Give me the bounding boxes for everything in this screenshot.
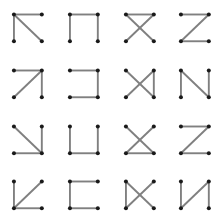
cell-r0c1 xyxy=(56,0,112,56)
graph-node-tl xyxy=(68,12,72,16)
graph-edge-tl-br xyxy=(181,70,209,97)
graph-node-bl xyxy=(123,95,127,99)
graph-node-tl xyxy=(123,12,127,16)
graph-svg xyxy=(167,56,223,112)
graph-node-br xyxy=(40,39,44,43)
graph-node-tr xyxy=(207,180,211,184)
graph-node-tl xyxy=(179,180,183,184)
graph-grid xyxy=(0,0,223,214)
graph-node-br xyxy=(151,206,155,210)
graph-node-tl xyxy=(12,12,16,16)
graph-edge-tl-br xyxy=(14,14,42,41)
cell-r0c3 xyxy=(167,0,223,56)
graph-svg xyxy=(0,56,56,112)
graph-node-br xyxy=(207,39,211,43)
graph-svg xyxy=(112,167,168,214)
graph-node-tl xyxy=(68,124,72,128)
graph-node-bl xyxy=(123,151,127,155)
graph-node-br xyxy=(151,95,155,99)
graph-svg xyxy=(56,167,112,214)
graph-node-bl xyxy=(68,151,72,155)
graph-svg xyxy=(56,56,112,112)
graph-node-br xyxy=(207,151,211,155)
graph-node-bl xyxy=(123,39,127,43)
graph-node-br xyxy=(40,151,44,155)
graph-node-br xyxy=(207,206,211,210)
graph-svg xyxy=(112,112,168,168)
graph-node-tr xyxy=(96,68,100,72)
cell-r2c3 xyxy=(167,112,223,168)
graph-node-bl xyxy=(68,39,72,43)
cell-r3c1 xyxy=(56,167,112,214)
cell-r3c2 xyxy=(112,167,168,214)
graph-svg xyxy=(167,167,223,214)
graph-edge-tl-br xyxy=(14,126,42,153)
graph-node-bl xyxy=(68,95,72,99)
graph-node-tr xyxy=(207,124,211,128)
graph-node-tr xyxy=(96,124,100,128)
graph-node-tr xyxy=(40,68,44,72)
graph-node-br xyxy=(207,95,211,99)
graph-edge-tr-bl xyxy=(181,182,209,209)
graph-node-br xyxy=(40,206,44,210)
graph-node-tl xyxy=(179,12,183,16)
cell-r3c3 xyxy=(167,167,223,214)
graph-node-tl xyxy=(123,180,127,184)
cell-r2c1 xyxy=(56,112,112,168)
cell-r1c2 xyxy=(112,56,168,112)
cell-r3c0 xyxy=(0,167,56,214)
graph-node-bl xyxy=(123,206,127,210)
graph-node-bl xyxy=(179,151,183,155)
graph-node-tl xyxy=(68,68,72,72)
graph-node-tl xyxy=(179,68,183,72)
cell-r2c2 xyxy=(112,112,168,168)
graph-node-br xyxy=(96,206,100,210)
graph-node-bl xyxy=(179,39,183,43)
graph-node-bl xyxy=(12,206,16,210)
graph-grid-figure xyxy=(0,0,223,214)
cell-r1c3 xyxy=(167,56,223,112)
graph-svg xyxy=(56,0,112,56)
graph-svg xyxy=(167,112,223,168)
graph-node-tr xyxy=(40,12,44,16)
graph-node-br xyxy=(96,151,100,155)
graph-node-br xyxy=(40,95,44,99)
graph-svg xyxy=(56,112,112,168)
graph-node-bl xyxy=(68,206,72,210)
graph-node-tr xyxy=(151,68,155,72)
graph-node-tl xyxy=(12,124,16,128)
graph-node-tr xyxy=(40,180,44,184)
graph-node-bl xyxy=(12,95,16,99)
graph-node-br xyxy=(96,95,100,99)
graph-node-bl xyxy=(12,151,16,155)
graph-edge-tr-bl xyxy=(14,70,42,97)
graph-edge-tr-bl xyxy=(181,126,209,153)
cell-r1c0 xyxy=(0,56,56,112)
cell-r2c0 xyxy=(0,112,56,168)
graph-node-bl xyxy=(179,206,183,210)
graph-node-tr xyxy=(207,68,211,72)
graph-node-tr xyxy=(96,180,100,184)
graph-node-tl xyxy=(123,124,127,128)
graph-node-bl xyxy=(179,95,183,99)
graph-edge-tr-bl xyxy=(181,14,209,41)
graph-node-br xyxy=(151,39,155,43)
graph-node-tl xyxy=(68,180,72,184)
graph-svg xyxy=(167,0,223,56)
cell-r0c2 xyxy=(112,0,168,56)
graph-node-tr xyxy=(207,12,211,16)
graph-node-tr xyxy=(151,12,155,16)
graph-node-tl xyxy=(179,124,183,128)
graph-node-br xyxy=(96,39,100,43)
graph-svg xyxy=(112,56,168,112)
graph-svg xyxy=(112,0,168,56)
cell-r1c1 xyxy=(56,56,112,112)
graph-node-tl xyxy=(123,68,127,72)
graph-node-tr xyxy=(151,124,155,128)
graph-node-tl xyxy=(12,68,16,72)
cell-r0c0 xyxy=(0,0,56,56)
graph-edge-bl-tr xyxy=(14,182,42,209)
graph-node-bl xyxy=(12,39,16,43)
graph-svg xyxy=(0,112,56,168)
graph-node-br xyxy=(151,151,155,155)
